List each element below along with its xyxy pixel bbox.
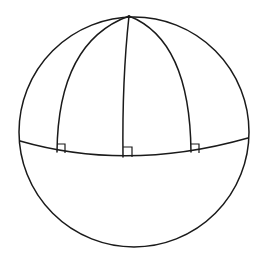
meridian-center <box>123 16 129 157</box>
sphere-outline <box>19 17 249 247</box>
right-angle-mark-right <box>191 144 199 153</box>
equator-arc <box>20 138 248 156</box>
right-angle-mark-left <box>57 144 65 153</box>
meridian-right <box>129 16 191 152</box>
meridian-left <box>57 16 129 152</box>
sphere-diagram <box>0 0 266 269</box>
